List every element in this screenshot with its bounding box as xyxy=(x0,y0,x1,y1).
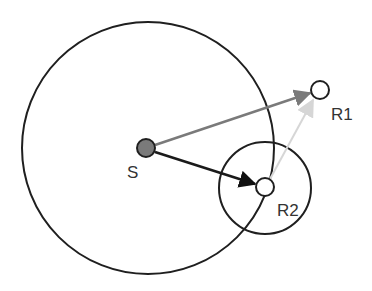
node-r1 xyxy=(311,81,329,99)
edge-s-to-r1 xyxy=(155,93,310,145)
node-r2 xyxy=(256,178,274,196)
label-r1: R1 xyxy=(331,105,353,124)
edge-s-to-r2 xyxy=(155,152,255,184)
relay-range-diagram: S R1 R2 xyxy=(0,0,372,291)
label-s: S xyxy=(127,163,138,182)
node-s xyxy=(137,139,155,157)
label-r2: R2 xyxy=(277,201,299,220)
